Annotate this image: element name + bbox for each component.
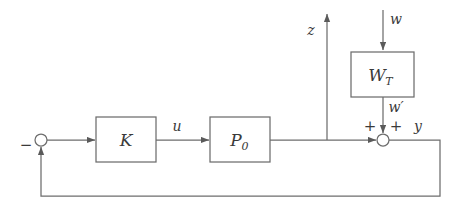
label-signal-z: z — [306, 22, 315, 38]
block-plant[interactable]: P 0 — [210, 117, 270, 162]
label-sum-plus-left: + — [364, 117, 377, 135]
label-signal-w: w — [390, 11, 402, 27]
block-controller[interactable]: K — [96, 117, 156, 162]
block-diagram-svg: K P 0 W T − u z w w′ + + y — [0, 0, 469, 213]
label-signal-u: u — [172, 118, 181, 134]
label-minus-sign: − — [20, 136, 33, 154]
label-sum-plus-right: + — [390, 117, 403, 135]
label-signal-w-prime: w′ — [388, 99, 404, 115]
block-weight[interactable]: W T — [351, 52, 414, 97]
summing-junction-error[interactable] — [35, 134, 47, 146]
block-diagram-canvas: K P 0 W T − u z w w′ + + y — [0, 0, 469, 213]
block-plant-subscript: 0 — [242, 140, 249, 153]
block-controller-label: K — [119, 130, 134, 150]
label-signal-y: y — [413, 118, 423, 134]
summing-junction-output[interactable] — [377, 134, 389, 146]
block-plant-label: P — [229, 130, 242, 150]
